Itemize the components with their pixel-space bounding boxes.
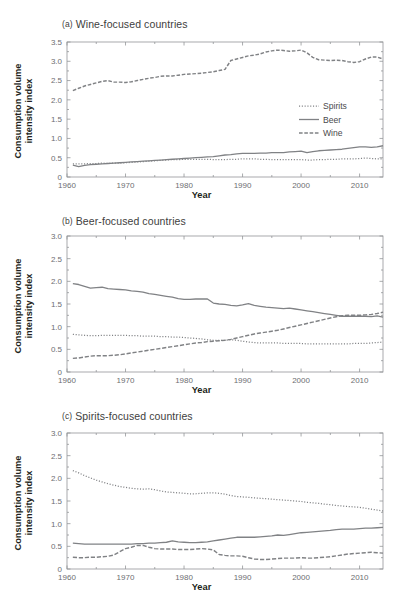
x-tick-label: 1960	[58, 573, 76, 582]
x-tick-label: 1960	[58, 376, 76, 385]
y-tick-label: 0.5	[51, 542, 63, 551]
y-tick-label: 3.0	[51, 232, 63, 241]
series-line-wine	[73, 50, 383, 91]
series-line-beer	[73, 527, 383, 544]
legend-label-wine: Wine	[323, 128, 343, 138]
legend-label-beer: Beer	[323, 115, 341, 125]
y-tick-label: 2.5	[51, 76, 63, 85]
panel-a-plot: 00.51.01.52.02.53.03.5196019701980199020…	[0, 0, 403, 200]
x-tick-label: 2000	[292, 376, 310, 385]
y-tick-label: 2.0	[51, 474, 63, 483]
y-tick-label: 2.0	[51, 277, 63, 286]
x-tick-label: 1990	[234, 376, 252, 385]
series-line-spirits	[73, 471, 383, 511]
panel-c-plot: 00.51.01.52.02.53.0196019701980199020002…	[0, 392, 403, 592]
x-tick-label: 1960	[58, 181, 76, 190]
y-tick-label: 1.0	[51, 520, 63, 529]
chart-panel-c: (c)Spirits-focused countries Consumption…	[0, 392, 403, 592]
y-tick-label: 3.0	[51, 57, 63, 66]
x-tick-label: 1970	[117, 573, 135, 582]
y-tick-label: 1.5	[51, 115, 63, 124]
x-tick-label: 1970	[117, 376, 135, 385]
chart-panel-b: (b)Beer-focused countries Consumption vo…	[0, 197, 403, 395]
x-tick-label: 1990	[234, 573, 252, 582]
x-tick-label: 2000	[292, 573, 310, 582]
x-tick-label: 2010	[351, 181, 369, 190]
y-tick-label: 1.0	[51, 134, 63, 143]
y-tick-label: 1.0	[51, 323, 63, 332]
y-tick-label: 2.5	[51, 452, 63, 461]
y-tick-label: 2.5	[51, 255, 63, 264]
y-tick-label: 2.0	[51, 96, 63, 105]
panel-b-plot: 00.51.01.52.02.53.0196019701980199020002…	[0, 197, 403, 395]
x-tick-label: 2010	[351, 573, 369, 582]
x-tick-label: 1980	[175, 573, 193, 582]
legend-label-spirits: Spirits	[323, 101, 347, 111]
y-tick-label: 3.5	[51, 38, 63, 47]
y-tick-label: 3.0	[51, 429, 63, 438]
x-tick-label: 1970	[117, 181, 135, 190]
series-line-beer	[73, 284, 383, 318]
x-tick-label: 1990	[234, 181, 252, 190]
series-line-beer	[73, 146, 383, 167]
y-tick-label: 0.5	[51, 154, 63, 163]
series-line-wine	[73, 312, 383, 358]
y-tick-label: 0.5	[51, 345, 63, 354]
y-tick-label: 1.5	[51, 497, 63, 506]
y-tick-label: 1.5	[51, 300, 63, 309]
x-tick-label: 1980	[175, 376, 193, 385]
x-tick-label: 1980	[175, 181, 193, 190]
figure-container: (a)Wine-focused countries Consumption vo…	[0, 0, 403, 592]
series-line-wine	[73, 545, 383, 559]
x-tick-label: 2000	[292, 181, 310, 190]
chart-panel-a: (a)Wine-focused countries Consumption vo…	[0, 0, 403, 200]
x-tick-label: 2010	[351, 376, 369, 385]
